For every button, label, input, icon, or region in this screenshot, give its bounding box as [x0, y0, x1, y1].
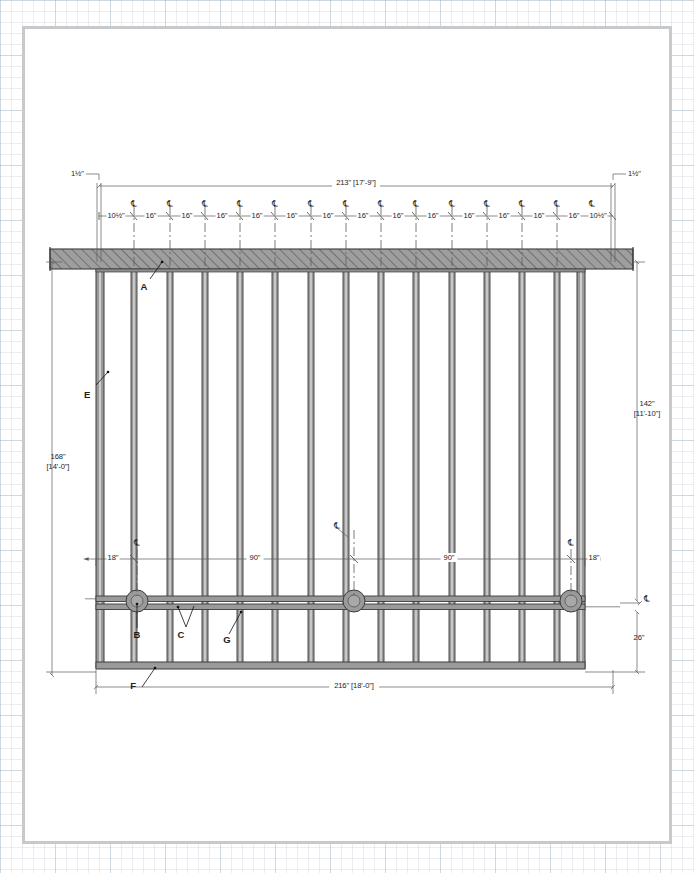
dim-top-seg-3: 16" — [181, 211, 194, 220]
dim-top-seg-13: 16" — [533, 211, 546, 220]
dim-bottom-right-26: 26" — [634, 633, 645, 642]
dim-top-seg-6: 16" — [286, 211, 299, 220]
centerline-symbol-7: ℄ — [343, 199, 349, 209]
dim-top-seg-14: 16" — [568, 211, 581, 220]
dim-top-seg-15: 10½" — [588, 211, 607, 220]
dim-right-height-ft: [11'-10"] — [634, 409, 660, 418]
centerline-symbol-2: ℄ — [167, 199, 173, 209]
dim-bottom-overall: 216" [18'-0"] — [329, 681, 379, 690]
centerline-symbol-1: ℄ — [131, 199, 137, 209]
dim-right-height: 142" [11'-10"] — [622, 399, 672, 418]
dim-top-seg-7: 16" — [322, 211, 335, 220]
structure-group — [50, 247, 633, 669]
dim-top-overall: 213" [17'-9"] — [332, 178, 380, 187]
dim-mid-90-left: 90" — [247, 553, 264, 562]
dim-top-seg-1: 10½" — [106, 211, 125, 220]
centerline-symbol-hub-right: ℄ — [568, 538, 574, 548]
centerline-symbol-14: ℄ — [589, 199, 595, 209]
centerline-symbol-11: ℄ — [484, 199, 490, 209]
dim-top-seg-2: 16" — [145, 211, 158, 220]
dim-top-seg-4: 16" — [216, 211, 229, 220]
dim-right-height-in: 142" — [640, 399, 655, 408]
centerline-symbol-hub-left: ℄ — [134, 538, 140, 548]
centerline-symbol-13: ℄ — [554, 199, 560, 209]
callout-b: B — [134, 629, 141, 640]
dim-top-seg-10: 16" — [427, 211, 440, 220]
dim-overhang-left: 1½" — [71, 169, 84, 178]
elevation-drawing-canvas — [0, 0, 694, 873]
dim-top-seg-12: 16" — [498, 211, 511, 220]
centerline-symbol-hub-center: ℄ — [334, 521, 340, 531]
callout-g: G — [223, 634, 230, 645]
dim-top-seg-5: 16" — [251, 211, 264, 220]
dim-left-height-in: 168" — [51, 452, 66, 461]
centerline-symbol-4: ℄ — [237, 199, 243, 209]
callout-f: F — [130, 680, 136, 691]
callout-c: C — [178, 629, 185, 640]
centerline-symbol-12: ℄ — [519, 199, 525, 209]
centerline-symbol-10: ℄ — [449, 199, 455, 209]
centerline-symbol-6: ℄ — [308, 199, 314, 209]
centerline-symbol-5: ℄ — [272, 199, 278, 209]
centerline-symbol-right-rail: ℄ — [644, 594, 650, 604]
dim-left-height-ft: [14'-0"] — [47, 462, 70, 471]
dim-top-seg-11: 16" — [463, 211, 476, 220]
bottom-sill-member-f — [96, 662, 585, 669]
dim-mid-left-18: 18" — [107, 553, 120, 562]
centerline-symbol-9: ℄ — [413, 199, 419, 209]
right-height-dimension — [585, 262, 645, 672]
dim-overhang-right: 1½" — [628, 169, 641, 178]
dim-mid-right-18: 18" — [588, 553, 601, 562]
dim-mid-90-right: 90" — [441, 553, 458, 562]
dim-left-height: 168" [14'-0"] — [35, 452, 81, 471]
callout-a: A — [141, 281, 148, 292]
callout-e: E — [84, 389, 90, 400]
centerline-symbol-8: ℄ — [378, 199, 384, 209]
dim-top-seg-9: 16" — [392, 211, 405, 220]
top-beam-member-a — [50, 249, 633, 269]
centerline-symbol-3: ℄ — [202, 199, 208, 209]
dim-top-seg-8: 16" — [357, 211, 370, 220]
